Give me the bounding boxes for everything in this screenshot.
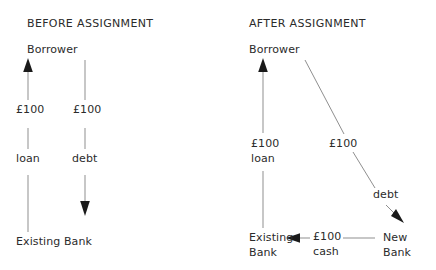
after-cash-amount: £100 (313, 230, 341, 243)
arrowhead-up-icon (258, 58, 268, 72)
after-node-existing-bank-line2: Bank (249, 245, 277, 260)
after-debt-amount: £100 (329, 137, 357, 150)
after-node-new-bank-line1: New (383, 230, 407, 245)
after-panel-title: AFTER ASSIGNMENT (249, 17, 366, 30)
before-node-existing-bank: Existing Bank (16, 235, 92, 248)
diagram-canvas (0, 0, 436, 270)
before-debt-amount: £100 (73, 103, 101, 116)
before-loan-label: loan (16, 152, 40, 165)
after-cash-label: cash (313, 245, 339, 258)
before-debt-label: debt (72, 152, 97, 165)
arrowhead-diagonal-icon (391, 209, 404, 223)
after-node-new-bank-line2: Bank (383, 245, 411, 260)
after-debt-label: debt (373, 188, 398, 201)
before-loan-connector (23, 58, 33, 232)
before-node-borrower: Borrower (27, 43, 78, 56)
before-loan-amount: £100 (16, 103, 44, 116)
before-panel-title: BEFORE ASSIGNMENT (27, 17, 153, 30)
arrowhead-up-icon (23, 58, 33, 72)
after-node-existing-bank-line1: Existing (249, 230, 293, 245)
after-node-borrower: Borrower (249, 43, 300, 56)
arrowhead-down-icon (80, 201, 90, 216)
before-debt-connector (80, 60, 90, 216)
after-loan-label: loan (251, 152, 275, 165)
after-loan-amount: £100 (251, 137, 279, 150)
